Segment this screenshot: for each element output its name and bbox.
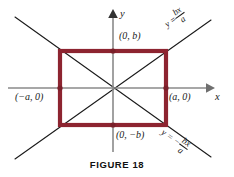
vertex-dot-right — [163, 85, 168, 90]
x-axis-label: x — [215, 92, 220, 103]
x-axis-arrow — [206, 83, 215, 93]
y-axis-arrow — [108, 9, 118, 18]
y-axis-label: y — [120, 9, 125, 20]
vertex-dot-left — [57, 85, 62, 90]
vertex-dot-top — [110, 48, 115, 53]
vertex-label-top: (0, b) — [119, 31, 141, 41]
figure-caption: FIGURE 18 — [0, 159, 234, 170]
vertex-label-left: (−a, 0) — [15, 92, 43, 102]
vertex-label-right: (a, 0) — [169, 92, 191, 102]
vertex-label-bottom: (0, −b) — [116, 130, 144, 140]
figure-18-container: y x (0, b) (a, 0) (0, −b) (−a, 0) y =bxa… — [0, 0, 234, 177]
figure-graphic — [0, 0, 234, 177]
vertex-dot-bottom — [110, 122, 115, 127]
